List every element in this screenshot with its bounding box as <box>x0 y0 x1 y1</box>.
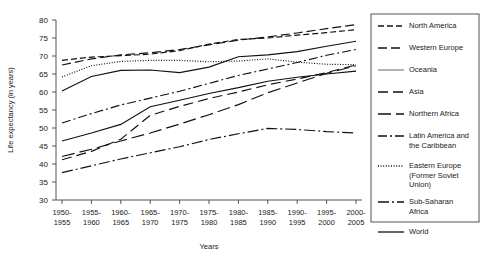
x-axis-title: Years <box>200 242 219 251</box>
y-tick-label: 50 <box>39 124 48 133</box>
legend-label[interactable]: North America <box>409 21 457 30</box>
y-tick-label: 55 <box>39 106 48 115</box>
x-tick-label: 1995-2000 <box>317 208 337 227</box>
legend-label[interactable]: Northern Africa <box>409 109 460 118</box>
x-tick-label: 1965-1970 <box>141 208 161 227</box>
y-tick-label: 40 <box>39 160 48 169</box>
y-tick-label: 75 <box>39 34 48 43</box>
series-line-eastern-europe-former-soviet-union <box>62 59 356 77</box>
x-tick-label: 1970-1975 <box>170 208 190 227</box>
legend-label[interactable]: Western Europe <box>409 43 463 52</box>
y-tick-label: 30 <box>39 196 48 205</box>
x-tick-label: 1985-1990 <box>258 208 278 227</box>
x-tick-group: 1950-19551955-19601960-19651965-19701970… <box>52 200 366 227</box>
x-tick-label: 1960-1965 <box>111 208 131 227</box>
chart-figure: 3035404550556065707580 Life expectancy (… <box>0 0 484 258</box>
y-tick-label: 45 <box>39 142 48 151</box>
legend: North AmericaWestern EuropeOceaniaAsiaNo… <box>371 14 479 236</box>
series-line-northern-africa <box>62 66 356 157</box>
series-line-oceania <box>62 41 356 91</box>
legend-label[interactable]: World <box>409 227 428 236</box>
x-tick-label: 1950-1955 <box>52 208 72 227</box>
x-axis: 1950-19551955-19601960-19651965-19701970… <box>52 200 366 251</box>
series-line-latin-america-and-the-caribbean <box>62 50 356 123</box>
series-line-sub-saharan-africa <box>62 128 356 172</box>
line-chart-svg: 3035404550556065707580 Life expectancy (… <box>0 0 484 258</box>
x-tick-label: 1955-1960 <box>82 208 102 227</box>
x-tick-label: 1980-1985 <box>229 208 249 227</box>
y-tick-label: 60 <box>39 88 48 97</box>
y-tick-label: 65 <box>39 70 48 79</box>
x-tick-label: 1990-1995 <box>288 208 308 227</box>
y-tick-label: 35 <box>39 178 48 187</box>
y-tick-label: 80 <box>39 16 48 25</box>
legend-label[interactable]: Asia <box>409 87 424 96</box>
x-tick-label: 2000-2005 <box>346 208 366 227</box>
legend-label[interactable]: Oceania <box>409 65 438 74</box>
y-axis-title: Life expectancy (in years) <box>6 67 15 153</box>
x-tick-label: 1975-1980 <box>199 208 219 227</box>
plot-series-group <box>62 25 356 173</box>
y-tick-label: 70 <box>39 52 48 61</box>
y-axis: 3035404550556065707580 Life expectancy (… <box>6 16 56 205</box>
y-tick-group: 3035404550556065707580 <box>39 16 56 205</box>
